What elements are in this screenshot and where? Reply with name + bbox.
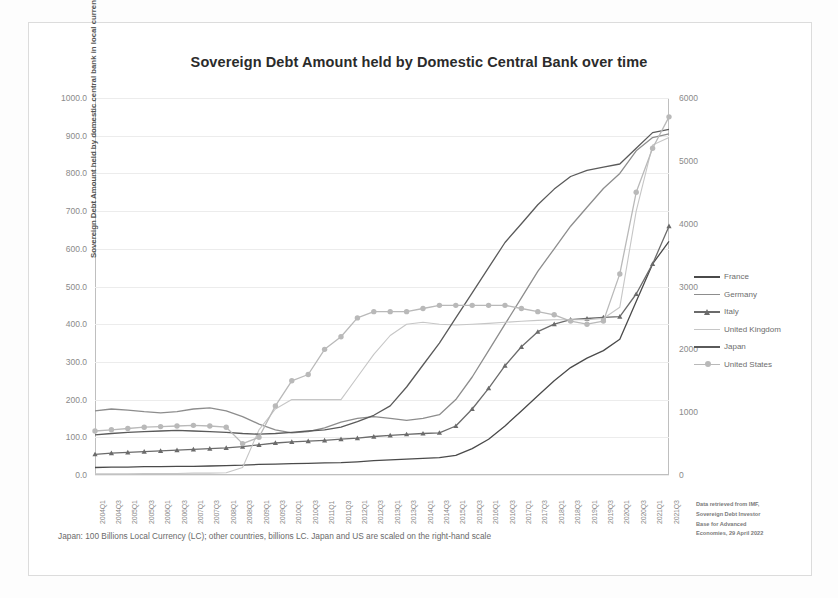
series-marker-united-states [207, 423, 212, 428]
x-tick: 2012Q1 [361, 500, 368, 524]
x-tick: 2014Q3 [443, 500, 450, 524]
x-tick: 2021Q1 [656, 500, 663, 524]
series-marker-united-states [92, 428, 97, 433]
series-marker-united-states [453, 303, 458, 308]
series-line-japan [95, 129, 669, 434]
x-tick: 2010Q1 [295, 500, 302, 524]
series-marker-united-states [306, 372, 311, 377]
legend-item-united-kingdom[interactable]: United Kingdom [694, 321, 814, 339]
x-tick: 2013Q3 [410, 500, 417, 524]
x-tick: 2018Q1 [558, 500, 565, 524]
series-marker-italy [634, 291, 639, 296]
x-tick: 2009Q3 [279, 500, 286, 524]
source-line-3: Base for Advanced [696, 520, 808, 530]
legend-item-italy[interactable]: Italy [694, 303, 814, 321]
x-tick: 2007Q3 [213, 500, 220, 524]
series-marker-united-states [256, 435, 261, 440]
series-line-france [95, 241, 669, 467]
x-tick: 2017Q3 [541, 500, 548, 524]
x-tick: 2011Q1 [328, 501, 335, 524]
y-tick-left: 500.0 [0, 282, 87, 292]
legend-swatch-icon [694, 307, 720, 317]
legend-item-germany[interactable]: Germany [694, 286, 814, 304]
x-tick: 2020Q1 [623, 500, 630, 524]
series-line-italy [95, 226, 669, 454]
series-marker-united-states [584, 322, 589, 327]
series-line-united-states [95, 117, 669, 444]
series-marker-united-states [437, 303, 442, 308]
source-note: Data retrieved from IMF, Sovereign Debt … [696, 500, 808, 539]
legend-swatch-icon [694, 289, 720, 299]
y-tick-left: 800.0 [0, 168, 87, 178]
y-tick-left: 200.0 [0, 395, 87, 405]
legend-item-japan[interactable]: Japan [694, 338, 814, 356]
series-marker-united-states [142, 425, 147, 430]
series-marker-united-states [420, 306, 425, 311]
series-marker-united-states [666, 114, 671, 119]
y-tick-left: 1000.0 [0, 93, 87, 103]
series-marker-united-states [650, 146, 655, 151]
y-tick-right: 6000 [679, 93, 769, 103]
series-marker-united-states [224, 425, 229, 430]
y-tick-left: 900.0 [0, 131, 87, 141]
legend: FranceGermanyItalyUnited KingdomJapanUni… [694, 268, 814, 373]
series-marker-united-states [338, 334, 343, 339]
legend-swatch-icon [694, 342, 720, 352]
series-marker-united-states [601, 318, 606, 323]
x-tick: 2009Q1 [263, 500, 270, 524]
series-marker-united-states [502, 303, 507, 308]
y-tick-right: 0 [679, 470, 769, 480]
x-tick: 2006Q1 [164, 500, 171, 524]
x-tick: 2017Q1 [525, 500, 532, 524]
x-tick: 2018Q3 [574, 500, 581, 524]
y-tick-right: 5000 [679, 156, 769, 166]
y-tick-left: 0.0 [0, 470, 87, 480]
series-marker-united-states [535, 309, 540, 314]
y-tick-left: 300.0 [0, 357, 87, 367]
x-tick: 2008Q1 [230, 500, 237, 524]
x-tick: 2013Q1 [394, 500, 401, 524]
x-tick: 2019Q1 [591, 500, 598, 524]
x-tick: 2011Q3 [345, 501, 352, 524]
series-marker-united-states [617, 271, 622, 276]
y-tick-right: 1000 [679, 407, 769, 417]
x-tick: 2005Q1 [131, 500, 138, 524]
series-marker-united-states [240, 441, 245, 446]
footnote: Japan: 100 Billions Local Currency (LC);… [58, 531, 491, 541]
plot-area: Sovereign Debt Amount held by domestic c… [95, 98, 669, 475]
x-tick: 2010Q3 [312, 500, 319, 524]
series-marker-united-states [191, 423, 196, 428]
series-marker-united-states [273, 403, 278, 408]
series-marker-united-states [355, 315, 360, 320]
x-tick: 2008Q3 [246, 500, 253, 524]
legend-item-united-states[interactable]: United States [694, 356, 814, 374]
legend-swatch-icon [694, 359, 720, 369]
x-tick: 2020Q3 [640, 500, 647, 524]
series-lines [95, 98, 669, 475]
legend-item-label: France [724, 272, 749, 281]
x-tick: 2014Q1 [427, 500, 434, 524]
y-axis-title: Sovereign Debt Amount held by domestic c… [89, 0, 98, 258]
chart-title: Sovereign Debt Amount held by Domestic C… [28, 54, 810, 70]
chart-page: Sovereign Debt Amount held by Domestic C… [0, 0, 838, 598]
legend-item-label: Italy [724, 307, 739, 316]
x-tick: 2007Q1 [197, 500, 204, 524]
x-tick: 2016Q1 [492, 500, 499, 524]
legend-item-france[interactable]: France [694, 268, 814, 286]
gridline [95, 475, 669, 476]
series-marker-united-states [404, 309, 409, 314]
y-tick-left: 400.0 [0, 319, 87, 329]
source-line-2: Sovereign Debt Investor [696, 510, 808, 520]
series-marker-united-states [388, 309, 393, 314]
series-marker-united-states [125, 426, 130, 431]
x-tick: 2004Q3 [115, 500, 122, 524]
series-marker-united-states [486, 303, 491, 308]
series-marker-united-states [470, 303, 475, 308]
series-marker-united-states [289, 378, 294, 383]
x-tick: 2012Q3 [377, 500, 384, 524]
source-line-1: Data retrieved from IMF, [696, 500, 808, 510]
x-axis-ticks: 2004Q12004Q32005Q12005Q32006Q12006Q32007… [95, 480, 669, 526]
series-marker-united-states [568, 318, 573, 323]
x-tick: 2016Q3 [509, 500, 516, 524]
legend-swatch-icon [694, 324, 720, 334]
